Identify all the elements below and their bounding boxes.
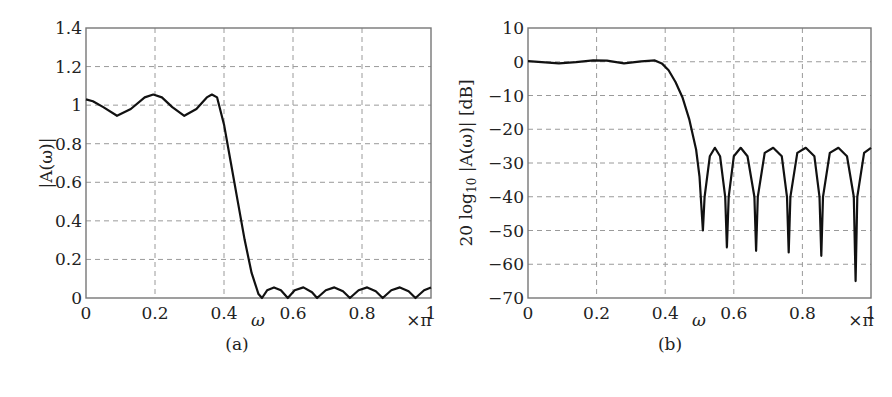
x-unit-label-a: ×π: [406, 310, 431, 330]
y-tick-label: 1.4: [55, 18, 82, 38]
data-series-line: [86, 95, 431, 299]
data-series-line: [528, 60, 871, 281]
x-axis-label-b: ω: [692, 310, 706, 330]
x-tick-label: 0: [81, 303, 92, 323]
y-tick-label: 0: [71, 288, 82, 308]
x-tick-label: 0.2: [141, 303, 168, 323]
x-tick-label: 0.8: [348, 303, 375, 323]
figure: 00.20.40.60.8100.20.40.60.811.21.4 00.20…: [0, 0, 892, 397]
y-tick-label: −50: [488, 221, 524, 241]
x-tick-label: 0: [523, 303, 534, 323]
x-unit-label-b: ×π: [848, 310, 873, 330]
plot-frame: [86, 28, 431, 298]
x-axis-label-a: ω: [251, 310, 265, 330]
y-tick-label: −70: [488, 288, 524, 308]
x-tick-label: 0.6: [279, 303, 306, 323]
y-tick-label: 0.4: [55, 211, 82, 231]
x-tick-label: 0.6: [720, 303, 747, 323]
y-tick-label: 1: [71, 95, 82, 115]
y-label-b-sub: 10: [465, 178, 479, 193]
y-tick-label: −10: [488, 86, 524, 106]
x-tick-label: 0.2: [583, 303, 610, 323]
y-tick-label: 0: [513, 52, 524, 72]
y-tick-label: −40: [488, 187, 524, 207]
y-tick-label: 0.2: [55, 249, 82, 269]
x-tick-label: 0.4: [210, 303, 237, 323]
chart-panel-b: 00.20.40.60.81−70−60−50−40−30−20−10010: [488, 18, 876, 323]
y-axis-label-a: |A(ω)|: [36, 138, 56, 189]
y-tick-label: −30: [488, 153, 524, 173]
y-tick-label: 1.2: [55, 57, 82, 77]
x-tick-label: 0.4: [652, 303, 679, 323]
panel-label-a: (a): [225, 334, 248, 354]
y-tick-label: −20: [488, 119, 524, 139]
y-tick-label: 0.8: [55, 134, 82, 154]
x-tick-label: 0.8: [789, 303, 816, 323]
chart-panel-a: 00.20.40.60.8100.20.40.60.811.21.4: [55, 18, 436, 323]
panel-label-b: (b): [658, 334, 682, 354]
y-label-b-main: 20 log: [456, 193, 476, 247]
y-tick-label: 0.6: [55, 172, 82, 192]
y-tick-label: 10: [502, 18, 524, 38]
y-tick-label: −60: [488, 254, 524, 274]
y-axis-label-b: 20 log10 |A(ω)| [dB]: [456, 79, 479, 246]
y-label-b-rest: |A(ω)| [dB]: [456, 79, 476, 177]
